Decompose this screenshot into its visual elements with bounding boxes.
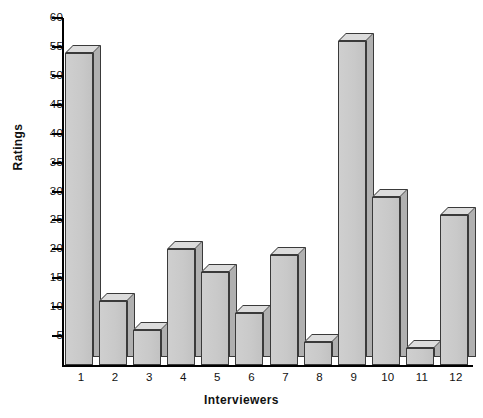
bar-front-face (99, 301, 127, 365)
x-axis-tick-label: 1 (64, 371, 98, 383)
bar-chart: Ratings 51015202530354045505560 12345678… (0, 0, 483, 418)
bar (406, 340, 442, 365)
bar (372, 189, 408, 365)
bar-front-face (406, 348, 434, 365)
bar-front-face (372, 197, 400, 365)
bar (201, 264, 237, 365)
bar-front-face (65, 53, 93, 365)
bar (270, 247, 306, 365)
y-axis-tick (52, 133, 63, 135)
x-axis-tick-label: 8 (303, 371, 337, 383)
y-axis-tick (52, 277, 63, 279)
x-axis-tick-label: 9 (337, 371, 371, 383)
bar (133, 322, 169, 365)
y-axis-tick (52, 248, 63, 250)
x-axis-tick-label: 6 (234, 371, 268, 383)
x-axis-tick-label: 5 (200, 371, 234, 383)
bar (167, 241, 203, 365)
bar-front-face (440, 215, 468, 365)
y-axis-tick (52, 46, 63, 48)
bar-front-face (338, 41, 366, 365)
x-axis-tick-label: 7 (269, 371, 303, 383)
y-axis-tick (52, 191, 63, 193)
x-axis-tick-label: 12 (439, 371, 473, 383)
x-axis-tick-label: 4 (166, 371, 200, 383)
bar (440, 207, 476, 365)
bar-front-face (270, 255, 298, 365)
y-axis-tick (52, 219, 63, 221)
bar-front-face (133, 330, 161, 365)
bar-front-face (304, 342, 332, 365)
bar (304, 334, 340, 365)
y-axis-title: Ratings (11, 107, 25, 187)
x-axis-title: Interviewers (0, 393, 483, 407)
bar (99, 293, 135, 365)
bar-side-face (400, 189, 408, 357)
y-axis-tick (52, 335, 63, 337)
x-axis-tick-label: 3 (132, 371, 166, 383)
y-axis-tick (52, 306, 63, 308)
bar (65, 45, 101, 365)
bar (338, 33, 374, 365)
y-axis-tick (52, 17, 63, 19)
bar (235, 305, 271, 365)
y-axis-tick (52, 104, 63, 106)
bar-front-face (167, 249, 195, 365)
bar-front-face (235, 313, 263, 365)
x-axis-tick-label: 2 (98, 371, 132, 383)
x-axis-line (62, 365, 473, 367)
x-axis-tick-label: 11 (405, 371, 439, 383)
y-axis-tick (52, 162, 63, 164)
bar-side-face (468, 207, 476, 357)
y-axis-tick (52, 75, 63, 77)
x-axis-tick-label: 10 (371, 371, 405, 383)
bar-front-face (201, 272, 229, 365)
